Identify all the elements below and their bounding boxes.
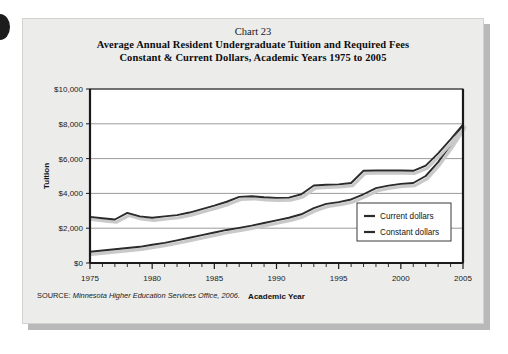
source-body: Minnesota Higher Education Services Offi… — [73, 291, 240, 300]
x-axis-label: Academic Year — [248, 292, 305, 301]
y-tick-label: $6,000 — [59, 155, 84, 164]
x-axis-tick-labels: 1975198019851990199520002005 — [81, 274, 472, 283]
source-note: SOURCE: Minnesota Higher Education Servi… — [37, 291, 240, 300]
x-tick-label: 1975 — [81, 274, 99, 283]
page-edge-artifact — [0, 14, 10, 40]
chart-card: Chart 23 Average Annual Resident Undergr… — [22, 18, 484, 324]
y-tick-label: $10,000 — [54, 85, 83, 94]
x-tick-label: 1995 — [330, 274, 348, 283]
y-tick-label: $0 — [74, 259, 83, 268]
plot-area: $0$2,000$4,000$6,000$8,000$10,000 197519… — [23, 19, 485, 325]
y-tick-label: $4,000 — [59, 189, 84, 198]
x-tick-label: 2005 — [454, 274, 472, 283]
chart-legend[interactable]: Current dollarsConstant dollars — [357, 203, 451, 241]
source-label: SOURCE: — [37, 291, 73, 300]
x-tick-label: 1985 — [205, 274, 223, 283]
x-tick-label: 2000 — [392, 274, 410, 283]
x-tick-label: 1980 — [143, 274, 161, 283]
legend-label-1: Current dollars — [380, 212, 434, 221]
y-axis-label: Tuition — [42, 163, 51, 189]
line-chart-svg: $0$2,000$4,000$6,000$8,000$10,000 197519… — [23, 19, 485, 325]
y-axis-tick-labels: $0$2,000$4,000$6,000$8,000$10,000 — [54, 85, 83, 268]
y-tick-label: $8,000 — [59, 120, 84, 129]
legend-label-2: Constant dollars — [380, 228, 439, 237]
y-tick-label: $2,000 — [59, 224, 84, 233]
x-tick-label: 1990 — [268, 274, 286, 283]
